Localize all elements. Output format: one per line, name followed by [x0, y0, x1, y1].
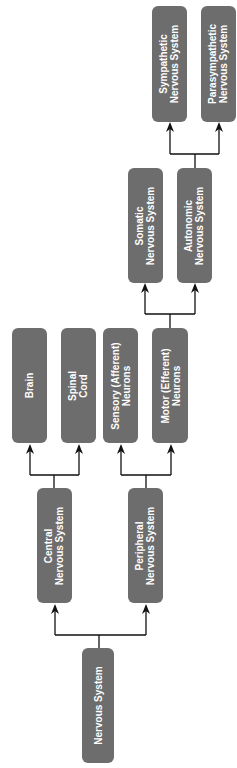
label-line: Nervous System	[146, 506, 157, 584]
label-line: Autonomic	[184, 186, 195, 264]
node-sympathetic-nervous-system: Sympathetic Nervous System	[152, 6, 187, 122]
node-label: Spinal Cord	[67, 370, 89, 400]
label-line: Sympathetic	[159, 25, 170, 103]
node-label: Motor (Efferent) Neurons	[159, 348, 181, 423]
node-parasympathetic-nervous-system: Parasympathetic Nervous System	[201, 6, 236, 122]
label-line: Cord	[78, 370, 89, 400]
node-label: Sensory (Afferent) Neurons	[110, 342, 132, 429]
label-line: Nervous System	[219, 24, 230, 104]
node-brain: Brain	[12, 328, 47, 443]
label-line: Motor (Efferent)	[159, 348, 170, 423]
node-nervous-system: Nervous System	[82, 648, 114, 763]
node-autonomic-nervous-system: Autonomic Nervous System	[177, 168, 212, 283]
node-motor-neurons: Motor (Efferent) Neurons	[152, 328, 188, 443]
node-label: Sympathetic Nervous System	[159, 25, 181, 103]
node-label: Parasympathetic Nervous System	[208, 24, 230, 104]
label-line: Somatic	[135, 186, 146, 264]
label-line: Brain	[24, 373, 35, 399]
node-label: Somatic Nervous System	[135, 186, 157, 264]
label-line: Neurons	[170, 348, 181, 423]
label-line: Peripheral	[135, 506, 146, 584]
label-line: Nervous System	[146, 186, 157, 264]
label-line: Spinal	[67, 370, 78, 400]
node-label: Nervous System	[93, 666, 104, 744]
label-line: Neurons	[121, 342, 132, 429]
label-line: Parasympathetic	[208, 24, 219, 104]
node-label: Brain	[24, 373, 35, 399]
node-sensory-neurons: Sensory (Afferent) Neurons	[103, 328, 138, 443]
node-somatic-nervous-system: Somatic Nervous System	[128, 168, 163, 283]
label-line: Sensory (Afferent)	[110, 342, 121, 429]
node-peripheral-nervous-system: Peripheral Nervous System	[128, 488, 163, 603]
label-line: Nervous System	[170, 25, 181, 103]
node-label: Central Nervous System	[44, 506, 66, 584]
node-label: Peripheral Nervous System	[135, 506, 157, 584]
label-line: Nervous System	[195, 186, 206, 264]
label-line: Nervous System	[55, 506, 66, 584]
node-spinal-cord: Spinal Cord	[61, 328, 96, 443]
label-line: Central	[44, 506, 55, 584]
node-central-nervous-system: Central Nervous System	[37, 488, 72, 603]
connector-root	[55, 635, 146, 648]
label-line: Nervous System	[93, 666, 104, 744]
node-label: Autonomic Nervous System	[184, 186, 206, 264]
